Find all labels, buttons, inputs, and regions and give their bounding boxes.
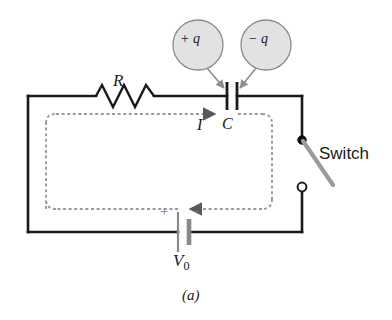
circuit-diagram-figure: R I C V0 + − Switch + q − q (a) bbox=[0, 0, 392, 320]
current-label: I bbox=[197, 117, 202, 133]
battery-plus-sign: + bbox=[160, 204, 168, 219]
battery-label: V0 bbox=[173, 252, 190, 273]
switch-bottom-contact[interactable] bbox=[298, 183, 307, 192]
battery-label-symbol: V bbox=[173, 251, 183, 270]
resistor-label: R bbox=[113, 72, 123, 89]
negative-charge-label: − q bbox=[248, 32, 268, 46]
battery-symbol bbox=[178, 212, 189, 252]
battery-minus-sign: − bbox=[192, 204, 200, 219]
current-loop-path bbox=[46, 114, 272, 209]
capacitor-symbol bbox=[227, 82, 237, 110]
battery-label-subscript: 0 bbox=[183, 259, 189, 273]
resistor-zigzag bbox=[96, 85, 154, 107]
figure-caption: (a) bbox=[182, 288, 200, 303]
positive-charge-label: + q bbox=[180, 32, 200, 46]
negative-charge-leader bbox=[240, 68, 256, 88]
positive-charge-leader bbox=[207, 68, 224, 88]
switch-label: Switch bbox=[319, 145, 369, 162]
capacitor-label: C bbox=[222, 116, 233, 132]
